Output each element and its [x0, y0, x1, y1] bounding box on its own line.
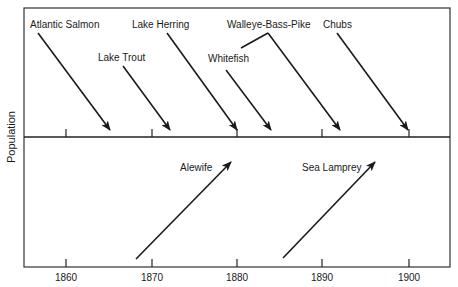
label-walleye-bass-pike: Walleye-Bass-Pike — [227, 19, 311, 30]
arrow-down-lake-herring — [167, 33, 237, 130]
label-whitefish: Whitefish — [208, 53, 249, 64]
species-population-diagram: 1860 1870 1880 1890 1900 Population Atla… — [0, 0, 458, 287]
label-lake-herring: Lake Herring — [132, 19, 189, 30]
tick-label-1900: 1900 — [398, 272, 421, 283]
arrow-down-chubs — [337, 33, 408, 130]
diagram-canvas: 1860 1870 1880 1890 1900 Population Atla… — [0, 0, 458, 287]
bottom-ticks — [66, 259, 409, 267]
arrow-up-sea-lamprey — [283, 162, 375, 258]
tick-label-1870: 1870 — [141, 272, 164, 283]
arrow-down-walleye-bass-pike — [268, 33, 340, 130]
arrow-down-whitefish — [226, 70, 271, 130]
tick-label-1890: 1890 — [311, 272, 334, 283]
bracket-walleye-to-whitefish — [241, 33, 268, 48]
arrow-down-atlantic-salmon — [38, 33, 110, 130]
middle-ticks — [66, 129, 409, 137]
label-chubs: Chubs — [323, 19, 352, 30]
y-axis-label: Population — [5, 111, 17, 163]
tick-label-1880: 1880 — [226, 272, 249, 283]
label-lake-trout: Lake Trout — [98, 52, 145, 63]
arrow-up-alewife — [136, 162, 231, 259]
tick-label-1860: 1860 — [55, 272, 78, 283]
label-atlantic-salmon: Atlantic Salmon — [30, 19, 99, 30]
label-sea-lamprey: Sea Lamprey — [302, 162, 361, 173]
label-alewife: Alewife — [180, 162, 213, 173]
arrow-down-lake-trout — [123, 66, 170, 130]
